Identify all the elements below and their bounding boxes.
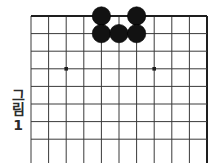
black-stone-3 — [92, 24, 110, 42]
black-stone-4 — [110, 24, 128, 42]
go-diagram-screenshot: 그 림 1 — [0, 0, 210, 163]
star-point-right-marker — [152, 67, 156, 71]
black-stone-1 — [92, 7, 110, 25]
star-point-left-marker — [64, 67, 68, 71]
board-stones — [92, 7, 146, 43]
go-board — [0, 0, 210, 163]
black-stone-5 — [127, 24, 145, 42]
black-stone-2 — [127, 7, 145, 25]
